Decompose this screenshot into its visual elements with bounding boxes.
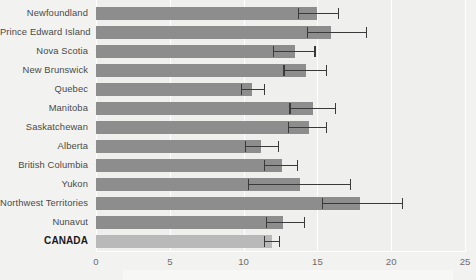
error-bar-cap-low	[248, 179, 249, 190]
error-bar-cap-low	[264, 236, 265, 247]
error-bar-cap-low	[322, 198, 323, 209]
category-label-nova-scotia: Nova Scotia	[0, 42, 88, 61]
x-tick-label-25: 25	[460, 256, 471, 267]
bar-chart: NewfoundlandPrince Edward IslandNova Sco…	[0, 0, 476, 280]
bar-row: Alberta	[0, 137, 476, 156]
error-bar-cap-high	[297, 160, 298, 171]
x-axis-line	[96, 251, 465, 252]
bar-row: New Brunswick	[0, 61, 476, 80]
error-bar-cap-low	[273, 46, 274, 57]
category-label-canada: CANADA	[0, 232, 88, 251]
error-bar-line	[322, 203, 402, 204]
category-label-manitoba: Manitoba	[0, 99, 88, 118]
error-bar-cap-low	[307, 27, 308, 38]
category-label-new-brunswick: New Brunswick	[0, 61, 88, 80]
error-bar-cap-high	[326, 65, 327, 76]
error-bar-cap-high	[278, 141, 279, 152]
category-label-british-columbia: British Columbia	[0, 156, 88, 175]
error-bar-cap-high	[304, 217, 305, 228]
category-label-northwest-territories: Northwest Territories	[0, 194, 88, 213]
error-bar-line	[283, 70, 326, 71]
bar-row: Quebec	[0, 80, 476, 99]
x-tick-label-15: 15	[312, 256, 323, 267]
category-label-alberta: Alberta	[0, 137, 88, 156]
x-tick-label-10: 10	[238, 256, 249, 267]
bar-row: British Columbia	[0, 156, 476, 175]
bar	[96, 140, 261, 153]
error-bar-cap-low	[289, 103, 290, 114]
bar	[96, 235, 272, 248]
bar-row: Saskatchewan	[0, 118, 476, 137]
category-label-yukon: Yukon	[0, 175, 88, 194]
error-bar-cap-high	[264, 84, 265, 95]
x-tick-label-20: 20	[386, 256, 397, 267]
x-tick-label-5: 5	[167, 256, 172, 267]
bar-row: Manitoba	[0, 99, 476, 118]
bar	[96, 159, 282, 172]
bar-row: Nova Scotia	[0, 42, 476, 61]
category-label-saskatchewan: Saskatchewan	[0, 118, 88, 137]
error-bar-cap-high	[326, 122, 327, 133]
error-bar-line	[248, 184, 350, 185]
bar-row: Newfoundland	[0, 4, 476, 23]
bar	[96, 26, 331, 39]
error-bar-cap-high	[279, 236, 280, 247]
error-bar-line	[241, 89, 265, 90]
error-bar-cap-low	[288, 122, 289, 133]
error-bar-cap-high	[350, 179, 351, 190]
error-bar-cap-low	[264, 160, 265, 171]
error-bar-cap-high	[314, 46, 315, 57]
bar	[96, 83, 252, 96]
error-bar-cap-high	[335, 103, 336, 114]
bar-row: Prince Edward Island	[0, 23, 476, 42]
error-bar-line	[298, 13, 338, 14]
error-bar-cap-high	[402, 198, 403, 209]
error-bar-cap-low	[283, 65, 284, 76]
bar-row: Yukon	[0, 175, 476, 194]
bar	[96, 45, 295, 58]
category-label-prince-edward-island: Prince Edward Island	[0, 23, 88, 42]
category-label-nunavut: Nunavut	[0, 213, 88, 232]
error-bar-line	[307, 32, 366, 33]
bar	[96, 197, 360, 210]
bar	[96, 102, 313, 115]
bar	[96, 121, 309, 134]
error-bar-line	[289, 108, 335, 109]
bar	[96, 64, 306, 77]
error-bar-line	[264, 241, 279, 242]
category-label-quebec: Quebec	[0, 80, 88, 99]
bar	[96, 216, 283, 229]
bar-row: Northwest Territories	[0, 194, 476, 213]
error-bar-cap-high	[338, 8, 339, 19]
error-bar-line	[245, 146, 277, 147]
x-tick-label-0: 0	[93, 256, 98, 267]
error-bar-cap-low	[266, 217, 267, 228]
bar-row: Nunavut	[0, 213, 476, 232]
error-bar-cap-low	[298, 8, 299, 19]
error-bar-cap-low	[245, 141, 246, 152]
error-bar-line	[264, 165, 296, 166]
footer-panel	[123, 270, 453, 280]
error-bar-line	[273, 51, 314, 52]
error-bar-cap-low	[241, 84, 242, 95]
category-label-newfoundland: Newfoundland	[0, 4, 88, 23]
error-bar-cap-high	[366, 27, 367, 38]
bar	[96, 7, 317, 20]
bar-row: CANADA	[0, 232, 476, 251]
error-bar-line	[288, 127, 326, 128]
error-bar-line	[266, 222, 304, 223]
